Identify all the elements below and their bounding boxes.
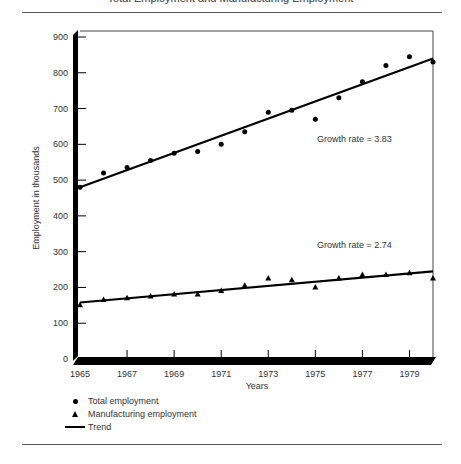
data-point-manufacturing [383, 271, 389, 277]
data-point-total [313, 117, 318, 122]
y-tick-label: 0 [63, 354, 68, 364]
data-point-total [266, 110, 271, 115]
x-axis [73, 357, 436, 365]
legend-label-trend: Trend [88, 422, 111, 432]
x-tick-label: 1973 [258, 369, 278, 379]
y-tick-label: 200 [53, 282, 68, 292]
x-tick-label: 1969 [164, 369, 184, 379]
data-point-total [289, 108, 294, 113]
growth-rate-manufacturing: Growth rate = 2.74 [317, 240, 392, 250]
trend-line [80, 58, 433, 187]
y-tick-label: 500 [53, 175, 68, 185]
legend-item-total: Total employment [62, 396, 159, 406]
data-point-total [195, 149, 200, 154]
chart-plot: 0100200300400500600700800900196519671969… [0, 0, 461, 464]
x-tick-label: 1965 [70, 369, 90, 379]
x-axis-label: Years [246, 381, 269, 391]
data-point-total [431, 60, 436, 65]
data-point-total [125, 165, 130, 170]
data-point-manufacturing [359, 271, 365, 277]
y-tick-label: 300 [53, 247, 68, 257]
data-point-manufacturing [289, 277, 295, 283]
data-point-total [407, 54, 412, 59]
y-axis [73, 30, 78, 361]
legend-label-total: Total employment [88, 396, 159, 406]
data-point-manufacturing [242, 282, 248, 288]
x-tick-label: 1967 [117, 369, 137, 379]
trend-line [80, 271, 433, 302]
data-point-total [78, 185, 83, 190]
legend-item-manufacturing: Manufacturing employment [62, 409, 197, 419]
data-point-total [383, 63, 388, 68]
data-point-total [101, 170, 106, 175]
data-point-total [336, 95, 341, 100]
y-tick-label: 900 [53, 32, 68, 42]
triangle-marker-icon [72, 411, 78, 417]
data-point-manufacturing [312, 284, 318, 290]
x-tick-label: 1971 [211, 369, 231, 379]
growth-rate-total: Growth rate = 3.83 [317, 134, 392, 144]
y-tick-label: 700 [53, 104, 68, 114]
data-point-manufacturing [430, 275, 436, 281]
y-axis-label: Employment in thousands [31, 146, 41, 250]
data-point-total [219, 142, 224, 147]
y-tick-label: 100 [53, 318, 68, 328]
y-tick-label: 400 [53, 211, 68, 221]
data-point-manufacturing [336, 275, 342, 281]
data-point-manufacturing [265, 275, 271, 281]
x-tick-label: 1977 [352, 369, 372, 379]
data-point-total [172, 151, 177, 156]
legend-label-manufacturing: Manufacturing employment [88, 409, 197, 419]
trend-line-icon [65, 426, 85, 428]
data-point-total [242, 129, 247, 134]
data-point-total [148, 158, 153, 163]
x-tick-label: 1979 [399, 369, 419, 379]
circle-marker-icon [73, 399, 78, 404]
legend-item-trend: Trend [62, 422, 111, 432]
x-tick-label: 1975 [305, 369, 325, 379]
y-tick-label: 600 [53, 139, 68, 149]
y-tick-label: 800 [53, 68, 68, 78]
plot-frame [80, 31, 433, 359]
data-point-total [360, 79, 365, 84]
